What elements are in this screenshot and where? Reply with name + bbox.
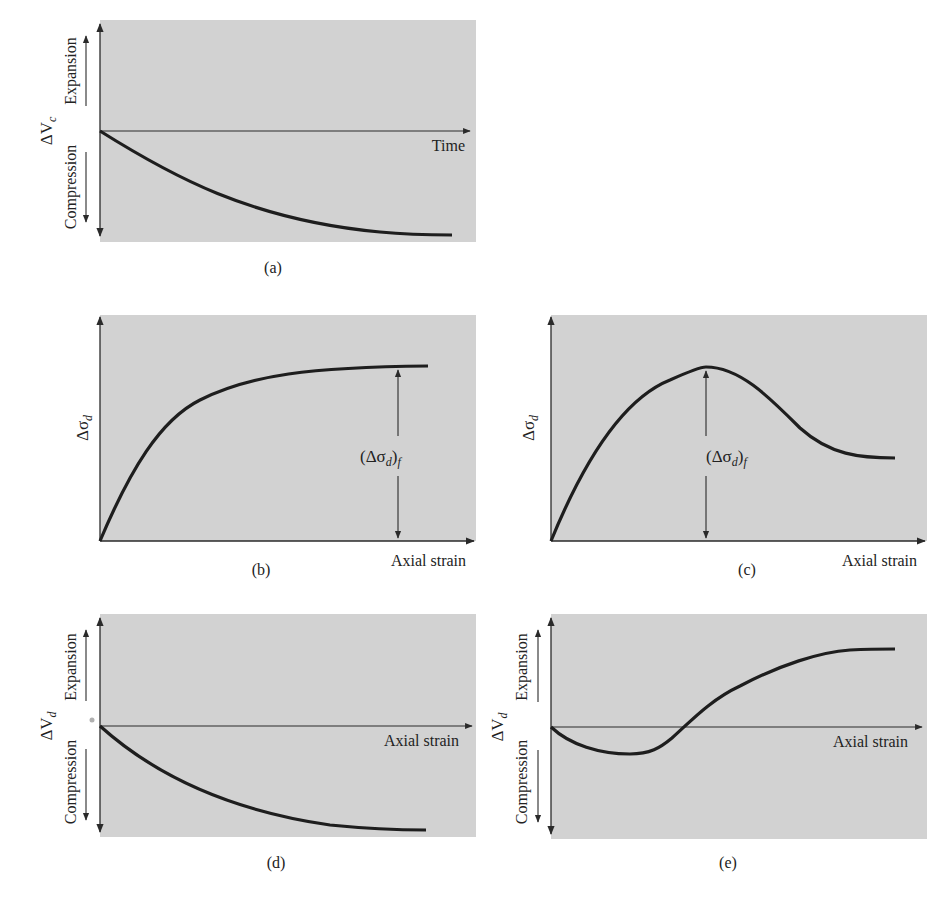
- failure-stress-label: (Δσd)f: [360, 447, 402, 469]
- compression-label: Compression: [513, 740, 531, 824]
- expansion-label: Expansion: [513, 633, 531, 701]
- caption-b: (b): [252, 561, 271, 579]
- figure: Time Expansion Compression ΔVc (a) (Δσd)…: [0, 0, 947, 900]
- expansion-label: Expansion: [62, 633, 80, 701]
- panel-a: Time Expansion Compression ΔVc (a): [37, 20, 476, 277]
- x-axis-label: Time: [432, 137, 465, 154]
- caption-e: (e): [719, 854, 737, 872]
- caption-a: (a): [264, 259, 282, 277]
- y-axis-label: ΔVd: [37, 710, 59, 740]
- compression-label: Compression: [62, 740, 80, 824]
- panel-b: (Δσd)f Axial strain Δσd (b): [73, 315, 476, 579]
- y-axis-label: Δσd: [519, 414, 541, 441]
- x-axis-label: Axial strain: [384, 732, 459, 749]
- panel-d: Axial strain Expansion Compression ΔVd (…: [37, 614, 476, 872]
- x-axis-label: Axial strain: [842, 552, 917, 569]
- caption-d: (d): [267, 854, 286, 872]
- panel-c: (Δσd)f Axial strain Δσd (c): [519, 315, 927, 579]
- x-axis-label: Axial strain: [833, 733, 908, 750]
- y-axis-label: Δσd: [73, 414, 95, 441]
- expansion-label: Expansion: [62, 37, 80, 105]
- plot-area: [551, 315, 927, 541]
- x-axis-label: Axial strain: [391, 552, 466, 569]
- plot-area: [100, 315, 476, 541]
- y-axis-label: ΔVd: [488, 711, 510, 741]
- y-axis-label: ΔVc: [37, 116, 59, 145]
- caption-c: (c): [738, 561, 756, 579]
- panel-e: Axial strain Expansion Compression ΔVd (…: [488, 614, 927, 872]
- figure-svg: Time Expansion Compression ΔVc (a) (Δσd)…: [0, 0, 947, 900]
- failure-stress-label: (Δσd)f: [706, 447, 748, 469]
- stray-dot: [90, 718, 95, 723]
- compression-label: Compression: [62, 145, 80, 229]
